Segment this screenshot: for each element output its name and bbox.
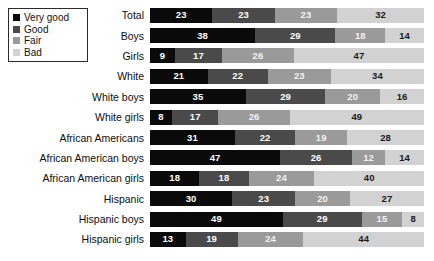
bar-segment: 30 (150, 191, 232, 206)
bar-segment: 23 (150, 8, 212, 23)
chart-row: White girls8172649 (0, 107, 434, 127)
bar-segment: 29 (283, 212, 362, 227)
bar-segment-value: 20 (347, 92, 358, 102)
stacked-bar: 4929158 (150, 212, 424, 227)
bar-segment-value: 22 (232, 71, 243, 81)
bar-segment-value: 14 (399, 153, 410, 163)
bar-segment: 19 (295, 130, 347, 145)
bar-segment: 40 (314, 171, 424, 186)
bar-segment-value: 26 (311, 153, 322, 163)
bar-segment: 35 (150, 89, 246, 104)
bar-segment: 18 (150, 171, 199, 186)
bar-segment: 18 (199, 171, 248, 186)
bar-segment: 32 (337, 8, 424, 23)
bar-segment-value: 23 (301, 10, 312, 20)
bar-segment-value: 24 (276, 173, 287, 183)
bar-segment-value: 32 (375, 10, 386, 20)
category-label: Hispanic (0, 193, 150, 205)
bar-segment-value: 8 (410, 214, 415, 224)
category-label: White (0, 70, 150, 82)
stacked-bar: 35292016 (150, 89, 424, 104)
bar-segment-value: 47 (354, 51, 365, 61)
stacked-bar: 23232332 (150, 8, 424, 23)
bar-segment-value: 12 (363, 153, 374, 163)
bar-segment: 49 (290, 110, 424, 125)
bar-segment: 21 (150, 69, 208, 84)
bar-segment-value: 19 (316, 133, 327, 143)
bar-segment: 26 (218, 110, 289, 125)
category-label: African American boys (0, 152, 150, 164)
bar-segment-value: 18 (219, 173, 230, 183)
bar-segment: 13 (150, 232, 186, 247)
stacked-bar: 30232027 (150, 191, 424, 206)
bar-segment: 8 (402, 212, 424, 227)
bar-segment: 22 (235, 130, 295, 145)
bar-segment: 23 (212, 8, 274, 23)
bar-segment: 49 (150, 212, 283, 227)
bar-segment: 31 (150, 130, 235, 145)
bar-segment-value: 27 (382, 194, 393, 204)
chart-row: African Americans31221928 (0, 127, 434, 147)
bar-segment: 20 (325, 89, 380, 104)
bar-segment-value: 31 (187, 133, 198, 143)
chart-plot-area: Total23232332Boys38291814Girls9172647Whi… (0, 5, 434, 250)
stacked-bar: 13192444 (150, 232, 424, 247)
category-label: Hispanic girls (0, 233, 150, 245)
bar-segment-value: 13 (162, 234, 173, 244)
bar-segment: 34 (331, 69, 424, 84)
stacked-bar: 21222334 (150, 69, 424, 84)
category-label: Boys (0, 30, 150, 42)
bar-segment: 14 (385, 28, 424, 43)
bar-segment: 14 (385, 150, 424, 165)
bar-segment: 23 (275, 8, 337, 23)
chart-row: Boys38291814 (0, 25, 434, 45)
bar-segment: 26 (280, 150, 352, 165)
bar-segment-value: 20 (317, 194, 328, 204)
bar-segment-value: 15 (377, 214, 388, 224)
stacked-bar-chart: Very goodGoodFairBad Total23232332Boys38… (0, 0, 434, 261)
category-label: Girls (0, 50, 150, 62)
chart-row: Total23232332 (0, 5, 434, 25)
category-label: Hispanic boys (0, 213, 150, 225)
bar-segment: 26 (222, 48, 294, 63)
bar-segment: 24 (249, 171, 315, 186)
chart-row: White21222334 (0, 66, 434, 86)
bar-segment: 38 (150, 28, 255, 43)
bar-segment: 9 (150, 48, 175, 63)
bar-segment-value: 22 (260, 133, 271, 143)
bar-segment: 23 (232, 191, 295, 206)
bar-segment-value: 9 (160, 51, 165, 61)
bar-segment-value: 16 (397, 92, 408, 102)
chart-row: Hispanic boys4929158 (0, 209, 434, 229)
bar-segment: 16 (380, 89, 424, 104)
bar-segment-value: 8 (158, 112, 163, 122)
bar-segment-value: 40 (364, 173, 375, 183)
chart-row: Hispanic girls13192444 (0, 229, 434, 249)
bar-segment-value: 14 (399, 31, 410, 41)
bar-segment: 28 (347, 130, 424, 145)
bar-segment-value: 47 (210, 153, 221, 163)
stacked-bar: 31221928 (150, 130, 424, 145)
category-label: White girls (0, 111, 150, 123)
bar-segment: 27 (350, 191, 424, 206)
bar-segment: 47 (294, 48, 424, 63)
bar-segment-value: 23 (294, 71, 305, 81)
bar-segment-value: 44 (358, 234, 369, 244)
bar-segment-value: 26 (253, 51, 264, 61)
bar-segment-value: 29 (280, 92, 291, 102)
bar-segment: 20 (295, 191, 350, 206)
bar-segment: 15 (362, 212, 403, 227)
bar-segment: 29 (246, 89, 325, 104)
bar-segment-value: 23 (238, 10, 249, 20)
category-label: Total (0, 9, 150, 21)
bar-segment-value: 26 (249, 112, 260, 122)
bar-segment: 23 (268, 69, 331, 84)
bar-segment: 29 (255, 28, 335, 43)
category-label: African Americans (0, 132, 150, 144)
bar-segment: 12 (352, 150, 385, 165)
bar-segment: 18 (335, 28, 385, 43)
bar-segment-value: 29 (317, 214, 328, 224)
stacked-bar: 38291814 (150, 28, 424, 43)
bar-segment-value: 35 (193, 92, 204, 102)
bar-segment: 17 (172, 110, 219, 125)
